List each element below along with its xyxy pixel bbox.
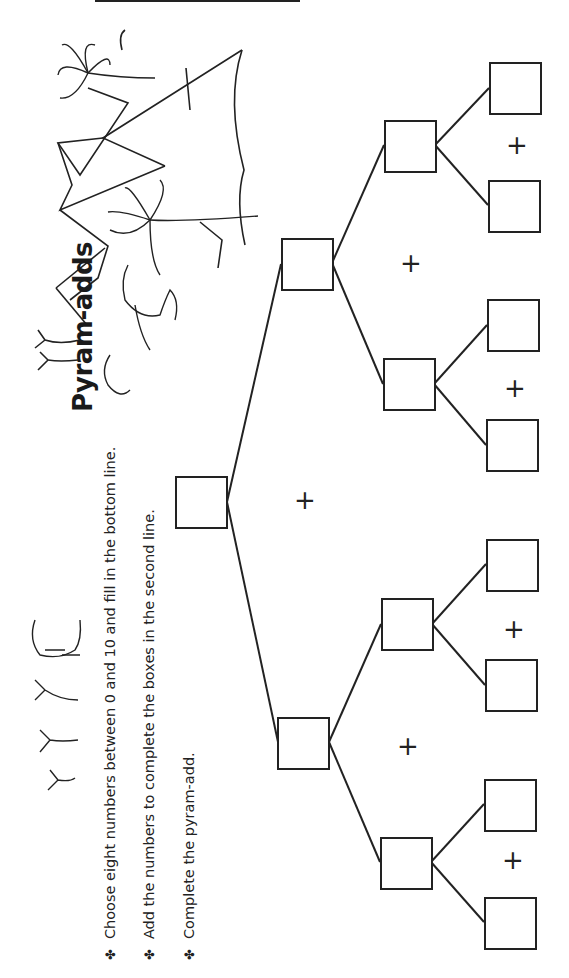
instruction-text: Add the numbers to complete the boxes in… [141, 509, 157, 939]
level3-box-2[interactable] [383, 358, 436, 411]
bottom-box-2[interactable] [488, 180, 541, 233]
bottom-box-8[interactable] [484, 897, 537, 950]
level3-box-3[interactable] [381, 598, 434, 651]
plus-icon: + [398, 250, 424, 276]
connector-lines [227, 88, 489, 922]
plus-icon: + [501, 616, 527, 642]
level3-box-1[interactable] [384, 120, 437, 173]
instruction-3: ✤Complete the pyram-add. [181, 752, 197, 960]
instruction-text: Choose eight numbers between 0 and 10 an… [102, 447, 118, 939]
title-camel-icon [32, 620, 80, 790]
plus-icon: + [395, 733, 421, 759]
plus-icon: + [500, 847, 526, 873]
page-title: Pyram-adds [68, 242, 98, 412]
plus-icon: + [292, 487, 318, 513]
bottom-box-6[interactable] [485, 659, 538, 712]
bullet-icon: ✤ [182, 949, 197, 960]
bottom-box-3[interactable] [487, 299, 540, 352]
level3-box-4[interactable] [380, 837, 433, 890]
bottom-box-1[interactable] [489, 62, 542, 115]
bottom-box-4[interactable] [486, 419, 539, 472]
plus-icon: + [502, 375, 528, 401]
palm-tree-icon [58, 44, 258, 275]
instruction-2: ✤Add the numbers to complete the boxes i… [141, 509, 157, 960]
camel-icon [104, 265, 176, 394]
level2-box-2[interactable] [277, 717, 330, 770]
top-box[interactable] [175, 476, 228, 529]
plus-icon: + [504, 132, 530, 158]
bullet-icon: ✤ [142, 949, 157, 960]
bottom-box-5[interactable] [486, 539, 539, 592]
level2-box-1[interactable] [281, 238, 334, 291]
instruction-1: ✤Choose eight numbers between 0 and 10 a… [102, 447, 118, 960]
instruction-text: Complete the pyram-add. [181, 752, 197, 939]
bullet-icon: ✤ [103, 949, 118, 960]
bottom-box-7[interactable] [484, 779, 537, 832]
